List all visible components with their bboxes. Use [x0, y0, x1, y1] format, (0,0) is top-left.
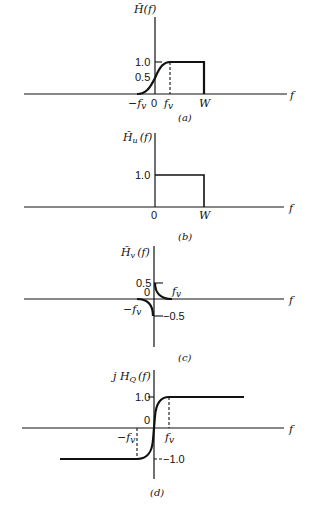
hv-curve-positive — [155, 283, 172, 299]
xtick-neg-fv: −fv — [128, 97, 146, 111]
xtick-fv: fv — [171, 285, 181, 299]
xtick-neg-fv: −fv — [117, 431, 135, 445]
panel-a: 1.0 0.5 H̃(f) f −fv 0 fv W (a) — [24, 3, 296, 123]
xtick-w: W — [199, 97, 212, 110]
y-axis-label: H̃(f) — [133, 3, 156, 16]
xtick-zero: 0 — [151, 97, 157, 109]
caption-c: (c) — [178, 352, 192, 363]
y-axis-label: j HQ(f) — [110, 370, 151, 384]
panel-d: 1.0 0 −1.0 j HQ(f) f −fv fv (d) — [22, 370, 295, 498]
ytick-neg-0-5: −0.5 — [163, 310, 185, 322]
x-axis-label: f — [289, 89, 296, 102]
caption-b: (b) — [178, 231, 192, 242]
ytick-0-5: 0.5 — [135, 71, 150, 83]
ytick-1-0: 1.0 — [135, 391, 150, 403]
x-axis-label: f — [288, 294, 295, 307]
ytick-1-0: 1.0 — [135, 169, 150, 181]
caption-d: (d) — [150, 487, 164, 498]
xtick-neg-fv: −fv — [123, 303, 141, 317]
x-axis-label: f — [288, 423, 295, 436]
panel-c: 0.5 0 −0.5 H̃v(f) f fv −fv (c) — [24, 246, 295, 363]
caption-a: (a) — [178, 112, 192, 123]
y-axis-label: H̃v(f) — [120, 246, 150, 260]
xtick-w: W — [199, 209, 212, 222]
figure: 1.0 0.5 H̃(f) f −fv 0 fv W (a) 1.0 H̃u(f… — [0, 0, 317, 508]
ytick-zero: 0 — [144, 286, 150, 298]
xtick-zero: 0 — [151, 209, 157, 221]
y-axis-label: H̃u(f) — [122, 131, 152, 145]
xtick-fv: fv — [164, 431, 174, 445]
panel-b: 1.0 H̃u(f) f 0 W (b) — [24, 131, 295, 242]
ytick-1-0: 1.0 — [135, 56, 150, 68]
xtick-fv: fv — [163, 97, 173, 111]
x-axis-label: f — [288, 202, 295, 215]
ytick-zero: 0 — [144, 414, 150, 426]
hu-curve — [155, 175, 204, 207]
ytick-neg-1-0: −1.0 — [163, 453, 185, 465]
